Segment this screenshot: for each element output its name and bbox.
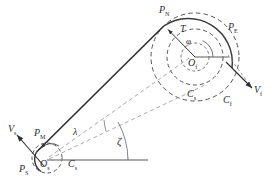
- label-angle-zeta: ζ: [117, 136, 121, 147]
- label-o-s: Os: [40, 159, 50, 171]
- figure-canvas: PN PE T φ Of Cs Cf Vf Vs PM PS Os Cs λ ζ: [0, 0, 275, 184]
- label-c-f: Cf: [223, 95, 232, 107]
- label-velocity-vs: Vs: [8, 124, 17, 136]
- label-p-s: PS: [19, 164, 29, 176]
- label-tension-t: T: [180, 24, 186, 34]
- vf-guide-dashed: [228, 55, 246, 80]
- label-velocity-vf: Vf: [254, 85, 262, 97]
- label-c-s-lower: Cs: [68, 159, 77, 171]
- label-angle-phi: φ: [186, 37, 191, 46]
- label-angle-lambda: λ: [73, 127, 77, 137]
- velocity-vector-vf: [226, 62, 252, 88]
- label-p-m: PM: [34, 128, 46, 140]
- label-p-e: PE: [228, 22, 238, 34]
- tether-line: [37, 26, 164, 152]
- label-o-f: Of: [188, 58, 197, 70]
- angle-arc-lambda: [104, 120, 106, 131]
- label-c-s-upper: Cs: [187, 89, 196, 101]
- label-p-n: PN: [159, 5, 170, 17]
- angle-arc-phi: [203, 41, 214, 58]
- arc-tether-wrap-right: [164, 19, 233, 68]
